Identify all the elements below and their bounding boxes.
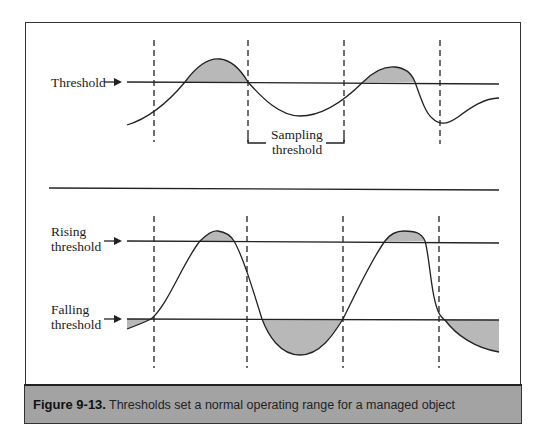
bottom-panel: Rising threshold Falling threshold — [51, 216, 499, 368]
rising-label-2: threshold — [51, 239, 101, 254]
arrow-icon — [114, 315, 122, 323]
figure-caption: Thresholds set a normal operating range … — [109, 398, 455, 412]
shaded-rising-2 — [385, 231, 425, 241]
panel-divider — [49, 188, 499, 190]
figure-number: Figure 9-13. — [33, 397, 109, 412]
caption-bar: Figure 9-13. Thresholds set a normal ope… — [24, 384, 522, 424]
rising-threshold-line — [127, 241, 499, 243]
figure: Threshold Sampling threshold — [0, 0, 551, 444]
sampling-label-2: threshold — [272, 142, 322, 157]
falling-label-1: Falling — [51, 302, 90, 317]
diagram-canvas: Threshold Sampling threshold — [0, 0, 551, 444]
arrow-icon — [114, 78, 122, 86]
top-panel: Threshold Sampling threshold — [51, 40, 499, 157]
arrow-icon — [114, 237, 122, 245]
threshold-label: Threshold — [51, 75, 106, 90]
rising-label-1: Rising — [51, 224, 87, 239]
sampling-label-1: Sampling — [271, 127, 323, 142]
signal-curve-top — [127, 59, 499, 125]
falling-label-2: threshold — [51, 317, 101, 332]
shaded-falling-3 — [445, 320, 499, 352]
